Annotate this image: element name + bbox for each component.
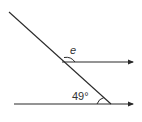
angle-e-arc — [64, 57, 75, 62]
angle-49-arc — [97, 98, 104, 105]
angle-49-label: 49° — [72, 90, 89, 102]
angle-diagram: e 49° — [0, 0, 142, 122]
angle-e-label: e — [70, 44, 76, 56]
transversal-line — [9, 12, 111, 104]
